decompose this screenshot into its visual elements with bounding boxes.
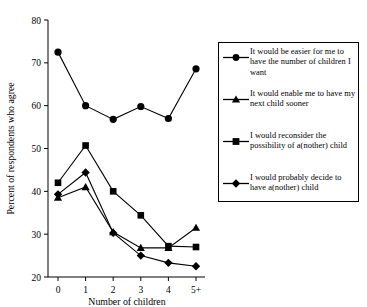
series-triangle bbox=[54, 183, 200, 251]
legend-label: It would enable me to have my next child… bbox=[249, 89, 357, 110]
circle-data-point-marker bbox=[110, 116, 117, 123]
circle-data-point-marker bbox=[82, 102, 89, 109]
legend-label: I would reconsider the possibility of a(… bbox=[249, 131, 357, 152]
x-axis-title: Number of children bbox=[88, 296, 165, 307]
circle-data-point-marker bbox=[192, 65, 199, 72]
square-data-point-marker bbox=[165, 243, 172, 250]
diamond-marker-icon bbox=[223, 175, 249, 186]
y-tick-label: 20 bbox=[32, 273, 42, 283]
series-line bbox=[58, 52, 196, 119]
series-circle bbox=[54, 49, 199, 123]
legend-entry-reconsider-possibility: I would reconsider the possibility of a(… bbox=[223, 131, 357, 152]
circle-marker-icon bbox=[223, 49, 249, 60]
circle-data-point-marker bbox=[165, 115, 172, 122]
diamond-data-point-marker bbox=[164, 259, 172, 267]
y-tick-label: 40 bbox=[32, 187, 42, 197]
square-data-point-marker bbox=[55, 179, 62, 186]
chart-figure: 20304050607080012345+Number of childrenP… bbox=[0, 0, 367, 307]
x-tick-label: 3 bbox=[138, 285, 143, 295]
circle-data-point-marker bbox=[137, 103, 144, 110]
triangle-data-point-marker bbox=[192, 224, 200, 231]
y-tick-label: 50 bbox=[32, 144, 42, 154]
series-line bbox=[58, 172, 196, 266]
series-line bbox=[58, 187, 196, 248]
chart-legend: It would be easier for me to have the nu… bbox=[218, 42, 359, 202]
square-data-point-marker bbox=[110, 188, 117, 195]
y-tick-label: 80 bbox=[32, 16, 42, 26]
legend-label: I would probably decide to have a(nother… bbox=[249, 173, 357, 194]
y-tick-label: 70 bbox=[32, 58, 42, 68]
y-tick-label: 60 bbox=[32, 101, 42, 111]
triangle-marker-icon bbox=[223, 91, 249, 102]
legend-entry-enable-next-child-sooner: It would enable me to have my next child… bbox=[223, 89, 357, 110]
x-tick-label: 0 bbox=[56, 285, 61, 295]
x-tick-label: 2 bbox=[111, 285, 116, 295]
series-line bbox=[58, 146, 196, 248]
circle-data-point-marker bbox=[54, 49, 61, 56]
series-square bbox=[55, 142, 200, 250]
square-data-point-marker bbox=[82, 142, 89, 149]
y-axis-title: Percent of respondents who agree bbox=[5, 82, 16, 215]
square-marker-icon bbox=[223, 133, 249, 144]
triangle-data-point-marker bbox=[82, 183, 90, 190]
square-data-point-marker bbox=[138, 212, 145, 219]
legend-entry-easier-to-have-number-wanted: It would be easier for me to have the nu… bbox=[223, 47, 357, 78]
x-tick-label: 4 bbox=[166, 285, 171, 295]
series-diamond bbox=[54, 168, 200, 270]
diamond-data-point-marker bbox=[192, 262, 200, 270]
legend-entry-probably-decide-to-have-child: I would probably decide to have a(nother… bbox=[223, 173, 357, 194]
y-tick-label: 30 bbox=[32, 230, 42, 240]
legend-label: It would be easier for me to have the nu… bbox=[249, 47, 357, 78]
x-tick-label: 5+ bbox=[191, 285, 201, 295]
square-data-point-marker bbox=[193, 244, 200, 251]
data-series-group bbox=[54, 49, 200, 271]
x-tick-label: 1 bbox=[83, 285, 88, 295]
